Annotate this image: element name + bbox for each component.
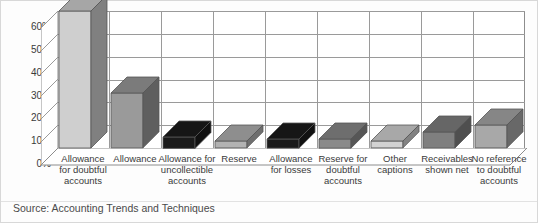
bar[interactable] (319, 123, 367, 148)
x-tick-label-line: Other (366, 153, 424, 164)
x-tick-label-line: No reference (470, 153, 528, 164)
x-tick-label-line: accounts (54, 175, 112, 186)
bar-3d-shape (475, 109, 523, 148)
bar[interactable] (111, 77, 159, 148)
x-tick-label-line: accounts (470, 175, 528, 186)
bar-3d-shape (423, 116, 471, 148)
x-tick-label: No referenceto doubtfulaccounts (470, 153, 528, 186)
x-tick-label-line: shown net (418, 164, 476, 175)
x-tick-label-line: Allowance (262, 153, 320, 164)
x-tick-label-line: captions (366, 164, 424, 175)
bar[interactable] (267, 123, 315, 148)
bar-3d-shape (215, 125, 263, 148)
x-tick-label-line: accounts (158, 175, 216, 186)
x-tick-label: Reserve (210, 153, 268, 164)
x-tick-label: Othercaptions (366, 153, 424, 175)
bar-3d-shape (371, 125, 419, 148)
bar-3d-shape (267, 123, 315, 148)
x-tick-label-line: uncollectible (158, 164, 216, 175)
chart-figure: 60%50%40%30%20%10%0% (0, 0, 538, 223)
bar-3d-shape (163, 121, 211, 148)
x-tick-label-line: for doubtful (54, 164, 112, 175)
x-tick-label-line: Reserve for (314, 153, 372, 164)
bar[interactable] (59, 0, 107, 148)
bar-3d-shape (319, 123, 367, 148)
bar[interactable] (423, 116, 471, 148)
x-tick-label-line: Receivables (418, 153, 476, 164)
x-tick-label-line: for losses (262, 164, 320, 175)
x-tick-label-line: Reserve (210, 153, 268, 164)
x-tick-label-line: Allowance for (158, 153, 216, 164)
x-tick-label: Allowancefor doubtfulaccounts (54, 153, 112, 186)
x-axis-labels: Allowancefor doubtfulaccountsAllowanceAl… (57, 153, 525, 193)
x-tick-label-line: Allowance (54, 153, 112, 164)
x-tick-label: Allowance foruncollectibleaccounts (158, 153, 216, 186)
bar[interactable] (371, 125, 419, 148)
x-tick-label: Reserve fordoubtfulaccounts (314, 153, 372, 186)
x-tick-label-line: accounts (314, 175, 372, 186)
x-tick-label: Allowancefor losses (262, 153, 320, 175)
x-tick-label-line: doubtful (314, 164, 372, 175)
bar-3d-shape (59, 0, 107, 148)
bar[interactable] (475, 109, 523, 148)
bar-3d-shape (111, 77, 159, 148)
x-tick-label-line: Allowance (106, 153, 164, 164)
bar[interactable] (215, 125, 263, 148)
source-caption: Source: Accounting Trends and Techniques (13, 202, 215, 214)
x-tick-label: Receivablesshown net (418, 153, 476, 175)
x-tick-label: Allowance (106, 153, 164, 164)
bar[interactable] (163, 121, 211, 148)
left-wall-3d (41, 11, 58, 148)
bar-series (57, 11, 525, 148)
x-tick-label-line: to doubtful (470, 164, 528, 175)
